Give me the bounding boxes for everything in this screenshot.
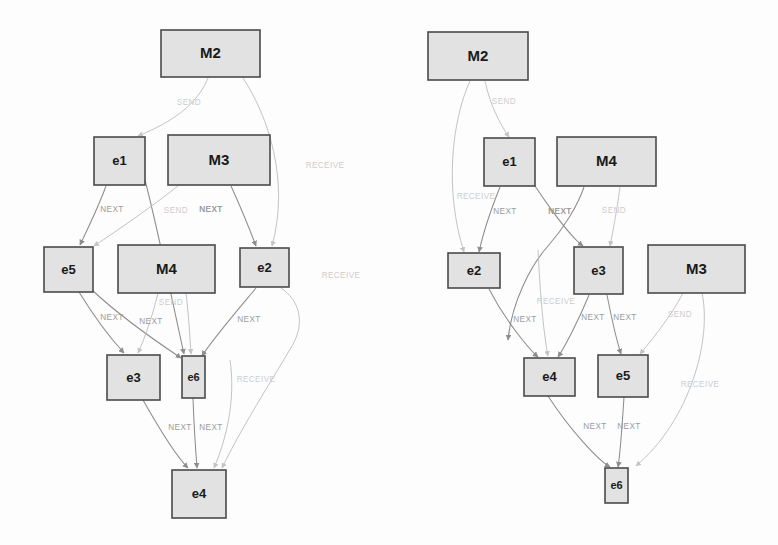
node-label: e6 bbox=[187, 371, 199, 383]
node-label: M4 bbox=[596, 152, 617, 169]
node-l-m4[interactable]: M4 bbox=[118, 245, 215, 293]
edge-L-M3-to-L-e5 bbox=[94, 186, 178, 246]
edge-L-e3-to-L-e4 bbox=[143, 400, 188, 468]
edge-R-M3-to-R-e5 bbox=[640, 293, 683, 354]
edge-label-receive: RECEIVE bbox=[237, 375, 276, 384]
edge-label-next: NEXT bbox=[513, 315, 536, 324]
node-label: e5 bbox=[61, 262, 75, 277]
node-r-e4[interactable]: e4 bbox=[524, 358, 575, 396]
node-label: M2 bbox=[468, 47, 489, 64]
edge-label-next: NEXT bbox=[237, 315, 260, 324]
edge-label-receive: RECEIVE bbox=[306, 161, 345, 170]
node-label: M3 bbox=[209, 151, 230, 168]
node-l-e2[interactable]: e2 bbox=[240, 248, 289, 287]
edge-label-next: NEXT bbox=[617, 422, 640, 431]
node-label: e4 bbox=[192, 486, 207, 501]
node-l-e5[interactable]: e5 bbox=[44, 247, 93, 292]
node-l-m2[interactable]: M2 bbox=[161, 30, 260, 77]
node-label: e5 bbox=[616, 368, 630, 383]
edge-label-next: NEXT bbox=[613, 313, 636, 322]
edge-L-M3-to-L-e2 bbox=[231, 186, 256, 246]
node-label: e3 bbox=[591, 263, 605, 278]
node-l-m3[interactable]: M3 bbox=[168, 135, 270, 185]
node-label: e1 bbox=[112, 153, 126, 168]
edge-label-next: NEXT bbox=[583, 422, 606, 431]
node-r-m4[interactable]: M4 bbox=[557, 137, 656, 186]
edge-label-next: NEXT bbox=[100, 205, 123, 214]
edge-R-M4-to-R-e3b bbox=[610, 187, 620, 246]
edge-R-M2-to-R-e2 bbox=[452, 81, 470, 252]
left-event-graph-nodes: M2e1M3e5M4e2e3e6e4 bbox=[44, 30, 289, 518]
edge-label-receive: RECEIVE bbox=[537, 297, 576, 306]
figure-canvas: SENDRECEIVENEXTNEXTNEXTSENDNEXTNEXTSENDN… bbox=[0, 0, 778, 545]
node-label: e1 bbox=[502, 154, 516, 169]
node-label: e4 bbox=[542, 369, 557, 384]
edge-label-next: NEXT bbox=[168, 423, 191, 432]
edge-label-next: NEXT bbox=[493, 207, 516, 216]
event-graph-svg: SENDRECEIVENEXTNEXTNEXTSENDNEXTNEXTSENDN… bbox=[0, 0, 778, 545]
edge-label-receive: RECEIVE bbox=[322, 271, 361, 280]
edge-label-send: SEND bbox=[164, 206, 188, 215]
nodes-layer: M2e1M3e5M4e2e3e6e4M2e1M4e2e3M3e4e5e6 bbox=[44, 30, 745, 518]
node-l-e3[interactable]: e3 bbox=[107, 355, 160, 400]
edge-label-send: SEND bbox=[602, 206, 626, 215]
right-event-graph-nodes: M2e1M4e2e3M3e4e5e6 bbox=[428, 32, 745, 503]
edge-label-next: NEXT bbox=[100, 313, 123, 322]
node-l-e6[interactable]: e6 bbox=[182, 356, 205, 398]
node-label: M2 bbox=[200, 44, 221, 61]
node-label: e3 bbox=[126, 370, 140, 385]
edge-R-M2-to-R-e1 bbox=[485, 81, 509, 137]
node-r-e6[interactable]: e6 bbox=[605, 468, 628, 503]
edge-R-e5-to-R-e6 bbox=[618, 397, 624, 467]
edge-label-send: SEND bbox=[177, 98, 201, 107]
node-label: e6 bbox=[610, 479, 622, 491]
edge-label-receive: RECEIVE bbox=[457, 192, 496, 201]
edge-label-send: SEND bbox=[668, 310, 692, 319]
edge-L-M4-to-L-e6 bbox=[186, 293, 191, 354]
edge-label-next: NEXT bbox=[199, 205, 222, 214]
node-r-m2[interactable]: M2 bbox=[428, 32, 528, 80]
node-r-e2[interactable]: e2 bbox=[448, 253, 500, 288]
edge-label-send: SEND bbox=[159, 298, 183, 307]
edge-R-e4-to-R-e6 bbox=[548, 396, 610, 467]
node-label: M3 bbox=[686, 260, 707, 277]
node-label: M4 bbox=[156, 260, 177, 277]
edge-label-next: NEXT bbox=[548, 207, 571, 216]
node-l-e4[interactable]: e4 bbox=[172, 470, 226, 518]
edge-label-receive: RECEIVE bbox=[681, 380, 720, 389]
edge-R-e3-to-R-e5 bbox=[607, 295, 621, 354]
edge-label-next: NEXT bbox=[139, 317, 162, 326]
edge-label-send: SEND bbox=[492, 97, 516, 106]
node-r-e3[interactable]: e3 bbox=[574, 247, 623, 294]
edge-L-e6-recv-to-L-e4 bbox=[214, 360, 232, 468]
node-label: e2 bbox=[257, 260, 271, 275]
node-label: e2 bbox=[467, 263, 481, 278]
edge-label-next: NEXT bbox=[199, 423, 222, 432]
edge-label-next: NEXT bbox=[581, 313, 604, 322]
edge-L-e6-to-L-e4 bbox=[193, 398, 197, 468]
edge-L-e1-to-L-e5 bbox=[80, 186, 106, 245]
node-r-e1[interactable]: e1 bbox=[484, 138, 535, 186]
node-r-e5[interactable]: e5 bbox=[598, 355, 648, 397]
node-l-e1[interactable]: e1 bbox=[94, 137, 145, 185]
node-r-m3[interactable]: M3 bbox=[648, 245, 745, 293]
edge-L-e5-to-L-e3 bbox=[79, 292, 124, 353]
